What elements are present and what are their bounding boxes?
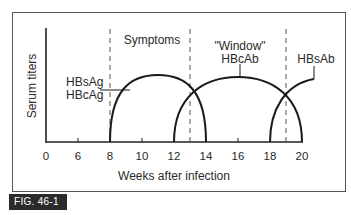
y-axis-label: Serum titers	[25, 54, 39, 119]
hbsag-label: HBsAg	[66, 75, 103, 89]
symptoms-label: Symptoms	[124, 33, 181, 47]
hbsab-label: HBsAb	[297, 52, 335, 66]
tick-label: 6	[75, 150, 81, 162]
tick-label: 8	[107, 150, 113, 162]
tick-label: 12	[168, 150, 181, 162]
hbcab-label: HBcAb	[221, 52, 259, 66]
tick-label: 18	[264, 150, 277, 162]
x-axis-label: Weeks after infection	[118, 169, 230, 183]
window-label: "Window"	[214, 39, 265, 53]
tick-label: 14	[200, 150, 213, 162]
tick-label: 20	[296, 150, 309, 162]
hepatitis-b-serology-chart: Symptoms "Window" HBcAb HBsAb HBsAg HBcA…	[0, 0, 351, 215]
curve-hbcab	[174, 77, 302, 142]
tick-label: 10	[136, 150, 149, 162]
hbcag-label: HBcAg	[66, 88, 103, 102]
tick-label: 16	[232, 150, 245, 162]
tick-label: 0	[43, 150, 49, 162]
x-tick-labels: 0 6 8 10 12 14 16 18 20	[43, 150, 309, 162]
curve-hbsag-hbcag	[110, 75, 206, 142]
figure-caption-label: FIG. 46-1	[9, 194, 67, 210]
